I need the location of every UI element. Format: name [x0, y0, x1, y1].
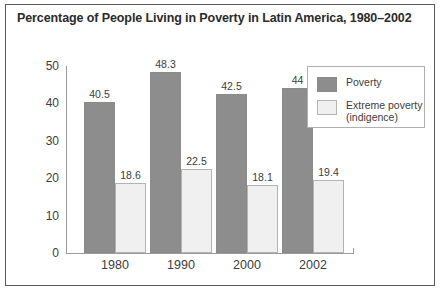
bar-indigence: 18.1: [247, 185, 278, 253]
bar-value-label: 19.4: [318, 166, 338, 178]
legend-label-indigence: Extreme poverty (indigence): [346, 99, 422, 123]
chart-figure: Percentage of People Living in Poverty i…: [0, 0, 441, 293]
y-axis-tick-label: 50: [46, 59, 59, 73]
x-axis-tick-label: 1990: [167, 258, 195, 272]
x-axis-end-tick: [353, 248, 354, 254]
bar-poverty: 42.5: [216, 94, 247, 253]
y-axis-tick-label: 30: [46, 134, 59, 148]
legend-item-poverty: Poverty: [317, 76, 382, 92]
x-axis-line: [66, 253, 354, 254]
bar-poverty: 40.5: [84, 102, 115, 253]
bar-value-label: 48.3: [155, 58, 175, 70]
y-axis-tick-label: 10: [46, 209, 59, 223]
y-axis-tick-label: 40: [46, 96, 59, 110]
y-axis-line: [66, 66, 67, 253]
chart-title: Percentage of People Living in Poverty i…: [17, 11, 427, 25]
x-axis-tick-label: 2002: [299, 258, 327, 272]
legend-item-indigence: Extreme poverty (indigence): [317, 99, 422, 123]
y-axis-tick-label: 20: [46, 171, 59, 185]
bar-indigence: 22.5: [181, 169, 212, 253]
bar-indigence: 19.4: [313, 180, 344, 253]
bar-group: 48.322.51990: [150, 66, 212, 253]
chart-legend: Poverty Extreme poverty (indigence): [307, 66, 425, 128]
legend-label-poverty: Poverty: [346, 76, 382, 88]
bar-value-label: 44: [292, 74, 304, 86]
bar-value-label: 18.6: [120, 169, 140, 181]
bar-group: 40.518.61980: [84, 66, 146, 253]
bar-indigence: 18.6: [115, 183, 146, 253]
legend-label-indigence-line1: Extreme poverty: [346, 99, 422, 111]
legend-label-indigence-line2: (indigence): [346, 111, 422, 123]
bar-value-label: 42.5: [221, 80, 241, 92]
bar-value-label: 18.1: [252, 171, 272, 183]
legend-swatch-indigence: [317, 100, 337, 115]
bar-poverty: 48.3: [150, 72, 181, 253]
x-axis-tick-label: 2000: [233, 258, 261, 272]
legend-swatch-poverty: [317, 77, 337, 92]
x-axis-tick-label: 1980: [101, 258, 129, 272]
bar-group: 42.518.12000: [216, 66, 278, 253]
y-axis-tick-label: 0: [52, 246, 59, 260]
bar-value-label: 22.5: [186, 155, 206, 167]
bar-value-label: 40.5: [89, 88, 109, 100]
